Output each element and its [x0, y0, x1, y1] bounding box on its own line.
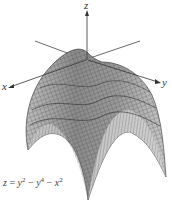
x-axis-label: x: [2, 81, 7, 92]
y-axis-back: [87, 41, 140, 59]
surface-plot-figure: z x y z = y2 − y4 − x2: [0, 0, 172, 211]
surface-equation: z = y2 − y4 − x2: [3, 176, 63, 188]
z-axis-label: z: [84, 0, 88, 11]
x-axis-arrow-icon: [8, 84, 14, 88]
y-axis-arrow-icon: [155, 79, 161, 84]
y-axis-label: y: [162, 77, 167, 88]
